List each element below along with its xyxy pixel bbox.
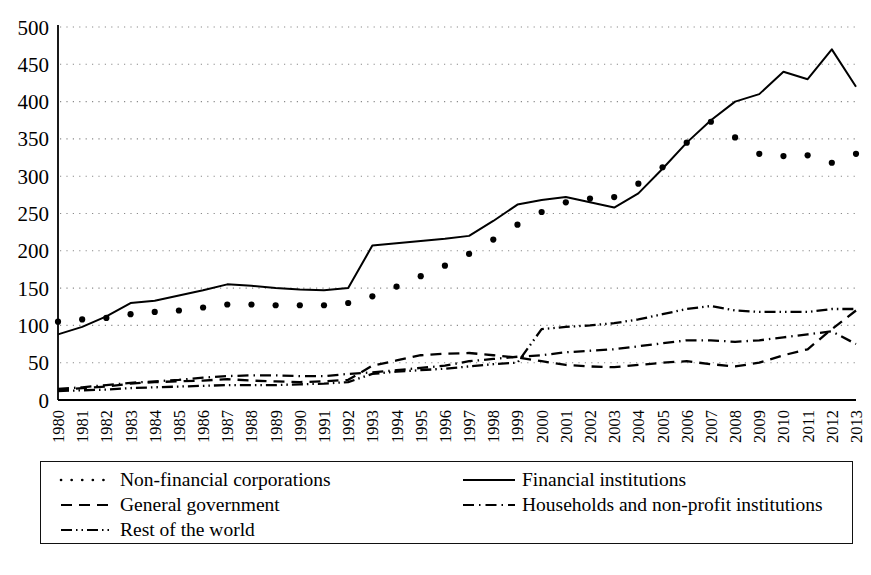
legend-label-financial-institutions: Financial institutions <box>522 470 686 490</box>
data-point <box>805 152 811 158</box>
data-point <box>780 153 786 159</box>
data-point <box>442 263 448 269</box>
legend-entries: Non-financial corporations Financial ins… <box>41 462 852 543</box>
x-tick-1989: 1989 <box>267 410 286 443</box>
x-tick-1980: 1980 <box>49 410 68 443</box>
data-point <box>853 151 859 157</box>
x-tick-1986: 1986 <box>194 410 213 443</box>
series-line <box>58 331 856 388</box>
series-rest-of-the-world <box>58 306 856 391</box>
series-financial-institutions <box>58 49 856 334</box>
y-tick-400: 400 <box>18 90 50 114</box>
x-tick-2012: 2012 <box>823 410 842 443</box>
data-point <box>514 222 520 228</box>
x-tick-2010: 2010 <box>774 410 793 443</box>
legend-label-rest-of-the-world: Rest of the world <box>120 520 255 540</box>
x-tick-1995: 1995 <box>412 410 431 443</box>
x-tick-1981: 1981 <box>73 410 92 443</box>
data-point <box>393 284 399 290</box>
x-tick-1993: 1993 <box>363 410 382 443</box>
legend-label-households-and-non-profit-institutions: Households and non-profit institutions <box>522 495 823 515</box>
y-axis-tick-labels: 050100150200250300350400450500 <box>18 16 50 413</box>
data-point <box>635 181 641 187</box>
legend-item-financial-institutions: Financial institutions <box>461 470 686 490</box>
series-line <box>58 310 856 390</box>
legend-item-general-government: General government <box>59 495 280 515</box>
data-point <box>490 237 496 243</box>
x-tick-1990: 1990 <box>291 410 310 443</box>
data-point <box>418 273 424 279</box>
x-tick-1982: 1982 <box>97 410 116 443</box>
data-point <box>466 251 472 257</box>
x-tick-1988: 1988 <box>242 410 261 443</box>
x-tick-1996: 1996 <box>436 410 455 443</box>
data-point <box>369 293 375 299</box>
x-tick-2008: 2008 <box>726 410 745 443</box>
x-tick-2007: 2007 <box>702 410 721 443</box>
x-tick-1994: 1994 <box>388 410 407 443</box>
figure: 050100150200250300350400450500 198019811… <box>0 0 871 575</box>
x-tick-2009: 2009 <box>750 410 769 443</box>
x-tick-1997: 1997 <box>460 410 479 443</box>
x-tick-2002: 2002 <box>581 410 600 443</box>
x-tick-2005: 2005 <box>654 410 673 443</box>
x-tick-1991: 1991 <box>315 410 334 443</box>
data-point <box>79 316 85 322</box>
line-chart: 050100150200250300350400450500 198019811… <box>0 0 871 455</box>
data-point <box>563 199 569 205</box>
x-tick-2011: 2011 <box>799 410 818 442</box>
series-households-and-non-profit-institutions <box>58 331 856 388</box>
y-tick-350: 350 <box>18 127 50 151</box>
x-tick-2000: 2000 <box>533 410 552 443</box>
y-tick-50: 50 <box>28 351 49 375</box>
legend-swatch-dash-dot <box>461 498 517 512</box>
x-tick-1999: 1999 <box>508 410 527 443</box>
data-point <box>224 301 230 307</box>
x-tick-1992: 1992 <box>339 410 358 443</box>
series-general-government <box>58 310 856 390</box>
legend-swatch-dashed <box>59 498 115 512</box>
y-tick-150: 150 <box>18 277 50 301</box>
series-non-financial-corporations <box>55 119 859 325</box>
x-tick-1983: 1983 <box>122 410 141 443</box>
chart-plot-area: 050100150200250300350400450500 198019811… <box>0 0 871 455</box>
data-point <box>756 151 762 157</box>
legend-swatch-dash-dot-dot <box>59 523 115 537</box>
legend-item-rest-of-the-world: Rest of the world <box>59 520 255 540</box>
data-point <box>321 302 327 308</box>
legend-label-non-financial-corporations: Non-financial corporations <box>120 470 331 490</box>
y-tick-450: 450 <box>18 53 50 77</box>
legend-label-general-government: General government <box>120 495 280 515</box>
data-point <box>345 300 351 306</box>
data-point <box>152 309 158 315</box>
series-line <box>58 49 856 334</box>
data-point <box>732 134 738 140</box>
y-tick-100: 100 <box>18 314 50 338</box>
x-tick-2003: 2003 <box>605 410 624 443</box>
x-tick-2004: 2004 <box>629 410 648 443</box>
legend-item-households-and-non-profit-institutions: Households and non-profit institutions <box>461 495 823 515</box>
data-point <box>248 301 254 307</box>
y-tick-200: 200 <box>18 239 50 263</box>
y-tick-500: 500 <box>18 16 50 40</box>
legend-item-non-financial-corporations: Non-financial corporations <box>59 470 331 490</box>
data-point <box>829 160 835 166</box>
legend: Non-financial corporations Financial ins… <box>40 461 853 544</box>
data-point <box>127 311 133 317</box>
x-tick-2006: 2006 <box>678 410 697 443</box>
y-tick-0: 0 <box>39 389 50 413</box>
data-point <box>297 302 303 308</box>
x-axis-tick-labels: 1980198119821983198419851986198719881989… <box>49 410 866 443</box>
y-tick-250: 250 <box>18 202 50 226</box>
x-tick-2013: 2013 <box>847 410 866 443</box>
data-point <box>176 307 182 313</box>
data-point <box>611 194 617 200</box>
x-tick-2001: 2001 <box>557 410 576 443</box>
data-point <box>55 319 61 325</box>
x-tick-1998: 1998 <box>484 410 503 443</box>
legend-swatch-solid <box>461 473 517 487</box>
data-point <box>273 302 279 308</box>
data-point <box>587 195 593 201</box>
x-tick-1987: 1987 <box>218 410 237 443</box>
x-tick-1985: 1985 <box>170 410 189 443</box>
